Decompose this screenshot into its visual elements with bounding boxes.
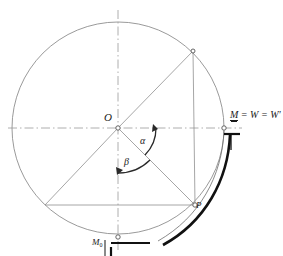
angle-arc-beta-arrowhead [116, 167, 123, 175]
label-point-p: P [196, 201, 202, 210]
angle-arc-beta [118, 160, 150, 173]
radius-upper-right [118, 51, 193, 128]
node-center-o [116, 126, 120, 130]
label-equals-w-w: = W = W′ [238, 109, 280, 120]
label-center-o: O [104, 112, 112, 123]
label-m-equals-w: M = W = W′ [230, 110, 281, 120]
radius-lower-left [45, 128, 118, 205]
label-moment-zero-subscript: 0 [100, 242, 103, 248]
heavy-moment-arc [163, 135, 230, 245]
node-upper-right [191, 49, 195, 53]
label-angle-alpha: α [140, 136, 145, 146]
node-bottom-axis [116, 235, 120, 239]
label-angle-beta: β [124, 157, 129, 167]
radius-to-p [118, 128, 195, 205]
label-moment-zero-letter: M [92, 237, 100, 247]
geometric-figure [0, 0, 283, 256]
label-moment-zero: M0 [92, 238, 103, 248]
node-right-axis [222, 126, 226, 130]
angle-arc-alpha [145, 128, 156, 155]
